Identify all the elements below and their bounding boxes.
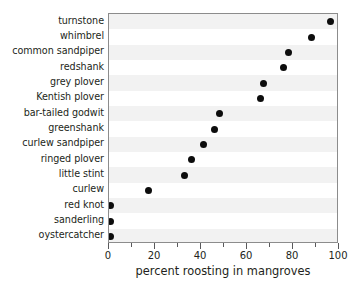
x-tick-minor [269, 243, 270, 247]
row-band [109, 45, 337, 60]
category-label: bar-tailed godwit [0, 108, 104, 118]
category-label: curlew [0, 184, 104, 194]
dot-plot-figure: turnstonewhimbrelcommon sandpiperredshan… [0, 0, 351, 287]
x-tick-major [200, 243, 201, 249]
data-point [188, 156, 195, 163]
category-label: grey plover [0, 77, 104, 87]
x-tick-major [292, 243, 293, 249]
row-band [109, 14, 337, 29]
x-tick-label: 60 [240, 250, 253, 262]
x-axis-title: percent roosting in mangroves [108, 264, 338, 278]
row-band [109, 198, 337, 213]
data-point [260, 80, 267, 87]
data-point [108, 233, 114, 240]
category-label: little stint [0, 169, 104, 179]
x-tick-minor [131, 243, 132, 247]
data-point [108, 218, 114, 225]
data-point [200, 141, 207, 148]
x-tick-label: 100 [328, 250, 347, 262]
category-label: ringed plover [0, 154, 104, 164]
data-point [308, 34, 315, 41]
category-label: sanderling [0, 215, 104, 225]
x-tick-major [108, 243, 109, 249]
x-tick-minor [177, 243, 178, 247]
row-band [109, 167, 337, 182]
category-label: greenshank [0, 123, 104, 133]
x-axis: percent roosting in mangroves 0204060801… [108, 243, 338, 287]
category-label: curlew sandpiper [0, 138, 104, 148]
x-tick-label: 40 [194, 250, 207, 262]
x-tick-label: 20 [148, 250, 161, 262]
data-point [257, 95, 264, 102]
data-point [211, 126, 218, 133]
plot-area [108, 13, 338, 243]
row-band [109, 137, 337, 152]
data-point [216, 110, 223, 117]
category-label: common sandpiper [0, 46, 104, 56]
x-tick-major [246, 243, 247, 249]
category-label: red knot [0, 200, 104, 210]
data-point [108, 202, 114, 209]
row-band [109, 75, 337, 90]
x-tick-major [338, 243, 339, 249]
data-point [181, 172, 188, 179]
x-tick-minor [223, 243, 224, 247]
row-band [109, 229, 337, 243]
data-point [280, 64, 287, 71]
category-label: whimbrel [0, 31, 104, 41]
category-label: turnstone [0, 16, 104, 26]
x-tick-minor [315, 243, 316, 247]
x-tick-major [154, 243, 155, 249]
category-axis-labels: turnstonewhimbrelcommon sandpiperredshan… [0, 13, 104, 243]
category-label: redshank [0, 62, 104, 72]
row-band [109, 106, 337, 121]
data-point [285, 49, 292, 56]
x-tick-label: 0 [105, 250, 111, 262]
category-label: Kentish plover [0, 92, 104, 102]
category-label: oystercatcher [0, 230, 104, 240]
x-tick-label: 80 [286, 250, 299, 262]
data-point [145, 187, 152, 194]
